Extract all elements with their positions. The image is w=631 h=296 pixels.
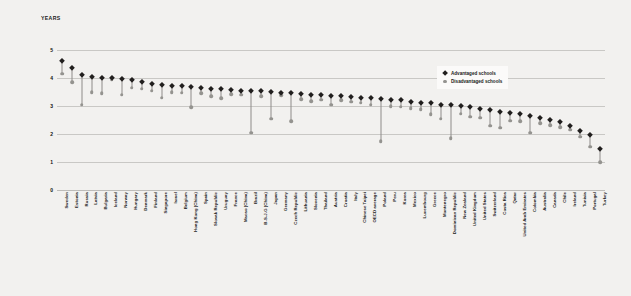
disadvantaged-point[interactable] [339, 99, 343, 103]
advantaged-point[interactable] [587, 132, 593, 138]
advantaged-point[interactable] [517, 111, 523, 117]
data-point-group[interactable] [266, 50, 276, 190]
disadvantaged-point[interactable] [469, 115, 473, 119]
disadvantaged-point[interactable] [80, 103, 84, 107]
data-point-group[interactable] [57, 50, 67, 190]
disadvantaged-point[interactable] [598, 160, 602, 164]
advantaged-point[interactable] [149, 81, 155, 87]
data-point-group[interactable] [177, 50, 187, 190]
data-point-group[interactable] [515, 50, 525, 190]
disadvantaged-point[interactable] [90, 90, 94, 94]
advantaged-point[interactable] [408, 99, 414, 105]
advantaged-point[interactable] [268, 89, 274, 95]
data-point-group[interactable] [147, 50, 157, 190]
advantaged-point[interactable] [458, 103, 464, 109]
data-point-group[interactable] [206, 50, 216, 190]
disadvantaged-point[interactable] [359, 101, 363, 105]
disadvantaged-point[interactable] [479, 116, 483, 120]
disadvantaged-point[interactable] [459, 112, 463, 116]
disadvantaged-point[interactable] [399, 105, 403, 109]
advantaged-point[interactable] [119, 76, 125, 82]
data-point-group[interactable] [137, 50, 147, 190]
disadvantaged-point[interactable] [269, 117, 273, 121]
data-point-group[interactable] [117, 50, 127, 190]
data-point-group[interactable] [306, 50, 316, 190]
data-point-group[interactable] [545, 50, 555, 190]
disadvantaged-point[interactable] [220, 96, 224, 100]
disadvantaged-point[interactable] [548, 123, 552, 127]
advantaged-point[interactable] [557, 119, 563, 125]
data-point-group[interactable] [157, 50, 167, 190]
data-point-group[interactable] [316, 50, 326, 190]
advantaged-point[interactable] [497, 109, 503, 115]
disadvantaged-point[interactable] [439, 117, 443, 121]
data-point-group[interactable] [246, 50, 256, 190]
disadvantaged-point[interactable] [429, 113, 433, 117]
data-point-group[interactable] [187, 50, 197, 190]
disadvantaged-point[interactable] [518, 120, 522, 124]
disadvantaged-point[interactable] [120, 93, 124, 97]
disadvantaged-point[interactable] [60, 72, 64, 76]
advantaged-point[interactable] [388, 97, 394, 103]
advantaged-point[interactable] [567, 123, 573, 129]
data-point-group[interactable] [127, 50, 137, 190]
advantaged-point[interactable] [398, 97, 404, 103]
disadvantaged-point[interactable] [210, 94, 214, 98]
data-point-group[interactable] [216, 50, 226, 190]
disadvantaged-point[interactable] [309, 99, 313, 103]
advantaged-point[interactable] [448, 102, 454, 108]
data-point-group[interactable] [97, 50, 107, 190]
data-point-group[interactable] [286, 50, 296, 190]
disadvantaged-point[interactable] [558, 125, 562, 129]
disadvantaged-point[interactable] [289, 120, 293, 124]
advantaged-point[interactable] [438, 102, 444, 108]
advantaged-point[interactable] [99, 75, 105, 81]
disadvantaged-point[interactable] [100, 92, 104, 96]
disadvantaged-point[interactable] [130, 86, 134, 90]
advantaged-point[interactable] [328, 93, 334, 99]
disadvantaged-point[interactable] [190, 106, 194, 110]
data-point-group[interactable] [107, 50, 117, 190]
advantaged-point[interactable] [468, 104, 474, 110]
advantaged-point[interactable] [59, 58, 65, 64]
advantaged-point[interactable] [179, 83, 185, 89]
disadvantaged-point[interactable] [379, 139, 383, 143]
disadvantaged-point[interactable] [349, 100, 353, 104]
data-point-group[interactable] [87, 50, 97, 190]
data-point-group[interactable] [565, 50, 575, 190]
disadvantaged-point[interactable] [160, 96, 164, 100]
advantaged-point[interactable] [208, 86, 214, 92]
data-point-group[interactable] [376, 50, 386, 190]
disadvantaged-point[interactable] [419, 108, 423, 112]
disadvantaged-point[interactable] [409, 106, 413, 110]
data-point-group[interactable] [426, 50, 436, 190]
advantaged-point[interactable] [238, 88, 244, 94]
disadvantaged-point[interactable] [588, 145, 592, 149]
advantaged-point[interactable] [358, 95, 364, 101]
advantaged-point[interactable] [248, 88, 254, 94]
advantaged-point[interactable] [308, 92, 314, 98]
advantaged-point[interactable] [428, 100, 434, 106]
advantaged-point[interactable] [129, 77, 135, 83]
disadvantaged-point[interactable] [200, 92, 204, 96]
data-point-group[interactable] [595, 50, 605, 190]
data-point-group[interactable] [167, 50, 177, 190]
disadvantaged-point[interactable] [329, 103, 333, 107]
data-point-group[interactable] [366, 50, 376, 190]
advantaged-point[interactable] [288, 90, 294, 96]
advantaged-point[interactable] [418, 100, 424, 106]
data-point-group[interactable] [67, 50, 77, 190]
advantaged-point[interactable] [278, 90, 284, 96]
data-point-group[interactable] [585, 50, 595, 190]
disadvantaged-point[interactable] [140, 87, 144, 91]
data-point-group[interactable] [326, 50, 336, 190]
data-point-group[interactable] [525, 50, 535, 190]
disadvantaged-point[interactable] [249, 131, 253, 135]
advantaged-point[interactable] [378, 96, 384, 102]
data-point-group[interactable] [236, 50, 246, 190]
data-point-group[interactable] [396, 50, 406, 190]
advantaged-point[interactable] [189, 84, 195, 90]
advantaged-point[interactable] [228, 87, 234, 93]
data-point-group[interactable] [296, 50, 306, 190]
disadvantaged-point[interactable] [509, 119, 513, 123]
